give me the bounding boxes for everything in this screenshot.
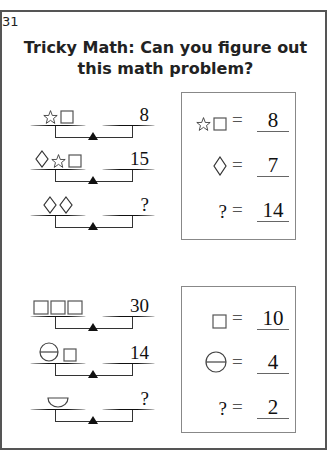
circle-line-icon (39, 342, 59, 362)
balance-scale-2: 15 (30, 156, 155, 196)
balance-scale-3: ? (30, 202, 155, 242)
equals-sign: = (232, 351, 243, 373)
right-pan: 15 (102, 156, 155, 170)
fulcrum-icon (88, 222, 98, 230)
square-icon (63, 348, 77, 362)
fulcrum-icon (88, 416, 98, 424)
unknown-value: ? (141, 389, 149, 408)
answer-box-2: = 10 = 4 ? = 2 (181, 286, 296, 433)
unknown-value: ? (141, 195, 149, 214)
square-icon (33, 300, 49, 315)
equals-sign: = (232, 307, 243, 329)
answer-box-1: = 8 = 7 ? = 14 (181, 92, 296, 240)
diamond-icon (59, 196, 73, 214)
answer-row: = 10 (182, 307, 295, 331)
left-pan (30, 202, 86, 216)
equals-sign: = (232, 199, 243, 221)
diamond-icon (213, 156, 227, 176)
fulcrum-icon (88, 176, 98, 184)
left-pan (30, 396, 86, 410)
square-icon (67, 300, 83, 315)
equals-sign: = (232, 109, 243, 131)
star-icon (43, 110, 58, 124)
balance-scale-4: 30 (30, 303, 155, 343)
fulcrum-icon (88, 370, 98, 378)
weight-value: 14 (130, 343, 149, 362)
diamond-icon (35, 150, 49, 168)
title-line-1: Tricky Math: Can you figure out (0, 37, 331, 58)
star-icon (196, 117, 211, 131)
answer-row: ? = 14 (182, 199, 295, 223)
answer-value: 14 (257, 199, 289, 222)
right-pan: 8 (102, 112, 155, 126)
equals-sign: = (232, 154, 243, 176)
left-pan (30, 350, 86, 364)
star-icon (51, 154, 66, 168)
square-icon (50, 300, 66, 315)
equals-sign: = (232, 396, 243, 418)
title-line-2: this math problem? (0, 58, 331, 79)
square-icon (213, 117, 227, 131)
weight-value: 30 (130, 296, 149, 315)
balance-scale-1: 8 (30, 112, 155, 152)
square-icon (212, 314, 227, 329)
right-pan: 14 (102, 350, 155, 364)
balance-scale-6: ? (30, 396, 155, 436)
left-pan (30, 303, 86, 317)
page-number: 31 (2, 14, 19, 29)
left-pan (30, 112, 86, 126)
square-icon (60, 110, 74, 124)
fulcrum-icon (88, 323, 98, 331)
right-pan: ? (102, 396, 155, 410)
right-pan: 30 (102, 303, 155, 317)
page-title: Tricky Math: Can you figure out this mat… (0, 37, 331, 79)
answer-value: 4 (257, 351, 289, 374)
balance-scale-5: 14 (30, 350, 155, 390)
left-pan (30, 156, 86, 170)
answer-row: = 7 (182, 154, 295, 178)
answer-row: ? = 2 (182, 396, 295, 420)
right-pan: ? (102, 202, 155, 216)
weight-value: 15 (130, 149, 149, 168)
circle-line-icon (205, 351, 227, 373)
square-icon (68, 154, 82, 168)
answer-row: = 4 (182, 351, 295, 375)
fulcrum-icon (88, 132, 98, 140)
answer-row: = 8 (182, 109, 295, 133)
answer-value: 8 (257, 109, 289, 132)
answer-value: 7 (257, 154, 289, 177)
answer-value: 10 (257, 307, 289, 330)
half-circle-icon (47, 397, 69, 408)
answer-value: 2 (257, 396, 289, 419)
diamond-icon (43, 196, 57, 214)
question-mark: ? (219, 399, 227, 418)
question-mark: ? (219, 202, 227, 221)
weight-value: 8 (140, 105, 150, 124)
